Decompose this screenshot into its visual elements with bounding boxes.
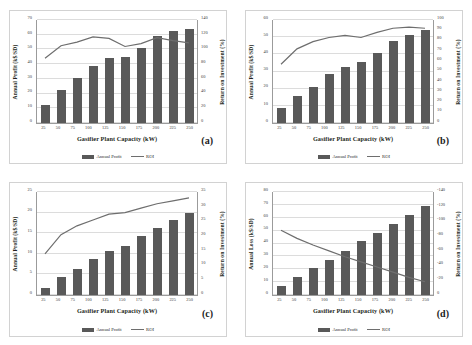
legend-label: Annual Profit — [332, 327, 357, 332]
y-tick-label: 80 — [264, 188, 268, 192]
secondary-y-tick-label: 30 — [201, 202, 205, 206]
line-series — [273, 192, 433, 295]
x-axis-ticks: 255075100125150175200225250 — [36, 297, 198, 305]
secondary-y-axis-ticks: 0102030405060708090100 — [435, 20, 461, 123]
four-panel-chart-figure: Annual Profit (k$/SD) Return on Investme… — [0, 0, 472, 345]
legend-label: Annual Profit — [332, 154, 357, 159]
secondary-y-tick-label: 5 — [201, 276, 203, 280]
x-tick-label: 200 — [153, 125, 160, 133]
x-tick-label: 150 — [355, 125, 362, 133]
secondary-y-tick-label: 10 — [201, 261, 205, 265]
roi-line — [45, 198, 189, 254]
secondary-y-tick-label: -40 — [437, 261, 443, 265]
plot-area — [36, 20, 198, 124]
legend: Annual ProfitROI — [10, 154, 226, 159]
y-tick-label: 60 — [264, 213, 268, 217]
y-tick-label: 0 — [266, 291, 268, 295]
x-tick-label: 250 — [422, 297, 429, 305]
legend-line-swatch — [131, 156, 144, 157]
secondary-y-tick-label: 140 — [201, 16, 208, 20]
secondary-y-tick-label: -140 — [437, 188, 445, 192]
y-tick-label: 60 — [264, 16, 268, 20]
y-axis-ticks: 0102030405060 — [246, 20, 270, 123]
legend-item: ROI — [131, 154, 154, 159]
y-axis-ticks: 010203040506070 — [10, 20, 34, 123]
legend-line-swatch — [367, 156, 380, 157]
y-tick-label: 20 — [264, 84, 268, 88]
y-axis-ticks: 0510152025 — [10, 192, 34, 295]
x-tick-label: 200 — [153, 297, 160, 305]
x-tick-label: 50 — [56, 297, 60, 305]
x-tick-label: 150 — [119, 297, 126, 305]
secondary-y-tick-label: 100 — [437, 16, 444, 20]
legend-bar-swatch — [82, 328, 94, 332]
panel-label: (a) — [201, 135, 213, 146]
chart-panel-b: Annual Profit (k$/SD) Return on Investme… — [236, 0, 472, 172]
plot-area — [272, 20, 434, 124]
x-tick-label: 250 — [186, 125, 193, 133]
y-tick-label: 0 — [30, 119, 32, 123]
y-tick-label: 10 — [264, 101, 268, 105]
legend-item: Annual Profit — [318, 327, 358, 332]
secondary-y-tick-label: 20 — [201, 104, 205, 108]
legend-item: ROI — [367, 327, 390, 332]
secondary-y-tick-label: 50 — [437, 67, 441, 71]
y-tick-label: 30 — [264, 67, 268, 71]
secondary-y-tick-label: 70 — [437, 46, 441, 50]
x-axis-title: Gasifier Plant Capacity (kW) — [36, 307, 198, 314]
legend-line-swatch — [131, 329, 144, 330]
secondary-y-tick-label: 60 — [201, 74, 205, 78]
y-tick-label: 25 — [28, 188, 32, 192]
x-tick-label: 100 — [85, 297, 92, 305]
x-tick-label: 175 — [136, 125, 143, 133]
secondary-y-tick-label: 80 — [437, 36, 441, 40]
y-tick-label: 20 — [28, 89, 32, 93]
x-tick-label: 175 — [372, 125, 379, 133]
legend-item: Annual Profit — [318, 154, 358, 159]
y-tick-label: 5 — [30, 270, 32, 274]
legend-bar-swatch — [318, 155, 330, 159]
roi-line — [281, 230, 425, 282]
secondary-y-tick-label: 0 — [201, 119, 203, 123]
secondary-y-tick-label: 40 — [437, 77, 441, 81]
x-axis-ticks: 255075100125150175200225250 — [272, 125, 434, 133]
x-tick-label: 225 — [405, 125, 412, 133]
y-tick-label: 0 — [266, 119, 268, 123]
y-tick-label: 40 — [28, 60, 32, 64]
secondary-y-axis-ticks: 020406080100120140 — [199, 20, 225, 123]
secondary-y-tick-label: 35 — [201, 188, 205, 192]
legend: Annual ProfitROI — [246, 327, 462, 332]
secondary-y-tick-label: 30 — [437, 88, 441, 92]
x-axis-title: Gasifier Plant Capacity (kW) — [36, 135, 198, 142]
secondary-y-tick-label: 15 — [201, 246, 205, 250]
plot-area — [272, 192, 434, 296]
line-series — [273, 20, 433, 123]
x-tick-label: 25 — [41, 297, 45, 305]
panel-label: (b) — [437, 135, 449, 146]
secondary-y-tick-label: -120 — [437, 202, 445, 206]
secondary-y-tick-label: 0 — [437, 291, 439, 295]
y-tick-label: 20 — [264, 265, 268, 269]
x-tick-label: 100 — [321, 125, 328, 133]
secondary-y-tick-label: -20 — [437, 276, 443, 280]
x-tick-label: 150 — [119, 125, 126, 133]
chart-panel-a: Annual Profit (k$/SD) Return on Investme… — [0, 0, 236, 172]
x-tick-label: 50 — [56, 125, 60, 133]
secondary-y-tick-label: 20 — [201, 232, 205, 236]
line-series — [37, 20, 197, 123]
x-axis-title: Gasifier Plant Capacity (kW) — [272, 307, 434, 314]
x-tick-label: 250 — [422, 125, 429, 133]
x-tick-label: 200 — [389, 297, 396, 305]
x-tick-label: 225 — [405, 297, 412, 305]
secondary-y-tick-label: 25 — [201, 217, 205, 221]
legend-label: Annual Profit — [96, 327, 121, 332]
y-tick-label: 15 — [28, 229, 32, 233]
legend-label: ROI — [382, 327, 390, 332]
panel-label: (c) — [202, 308, 213, 319]
legend-label: ROI — [146, 154, 154, 159]
x-tick-label: 25 — [277, 125, 281, 133]
x-axis-ticks: 255075100125150175200225250 — [272, 297, 434, 305]
y-tick-label: 70 — [28, 16, 32, 20]
x-tick-label: 75 — [70, 125, 74, 133]
secondary-y-tick-label: 60 — [437, 57, 441, 61]
